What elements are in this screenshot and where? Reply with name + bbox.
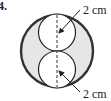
geometry-figure: 2 cm 2 cm xyxy=(0,0,111,101)
label-top-radius: 2 cm xyxy=(83,3,107,17)
label-bottom-radius: 2 cm xyxy=(83,87,107,101)
